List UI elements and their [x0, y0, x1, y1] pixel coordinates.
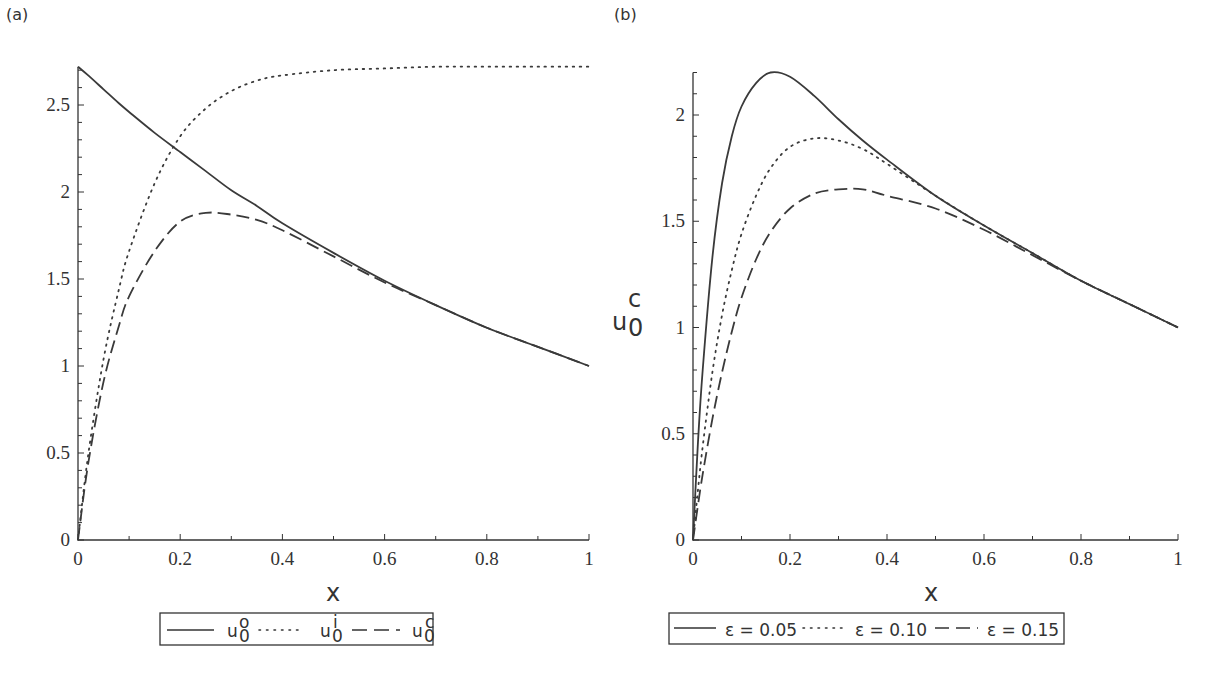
- figure: (a) 00.20.40.60.8100.511.522.5 x u 0 o u…: [0, 0, 1215, 684]
- series-line-0: [78, 67, 589, 366]
- y-tick-label: 2.5: [46, 94, 70, 115]
- y-tick-label: 2: [61, 181, 71, 202]
- x-axis-label-b: x: [924, 579, 938, 607]
- legend-b: ε = 0.05 ε = 0.10 ε = 0.15: [669, 613, 1064, 644]
- x-tick-label: 1: [584, 548, 594, 569]
- x-axis-label-a: x: [326, 579, 340, 607]
- svg-text:u: u: [412, 621, 423, 641]
- axes-b: 00.20.40.60.8100.511.52: [661, 73, 1183, 570]
- legend-b-item-1: ε = 0.10: [855, 620, 927, 640]
- series-line-2: [78, 212, 589, 540]
- series-line-2: [693, 189, 1178, 540]
- panel-label-a: (a): [6, 5, 28, 24]
- series-line-0: [693, 72, 1178, 540]
- svg-text:0: 0: [628, 314, 643, 342]
- y-tick-label: 0.5: [661, 423, 685, 444]
- x-tick-label: 0.6: [972, 548, 996, 569]
- y-axis-label-b: u 0 c: [612, 285, 643, 342]
- legend-a: u 0 o u 0 i u 0 c: [160, 612, 435, 646]
- x-tick-label: 0.6: [373, 548, 397, 569]
- chart-panel-a: (a) 00.20.40.60.8100.511.522.5 x u 0 o u…: [6, 5, 594, 646]
- plot-lines-a: [78, 67, 589, 540]
- x-tick-label: 1: [1173, 548, 1183, 569]
- x-tick-label: 0.4: [875, 548, 899, 569]
- svg-text:u: u: [612, 308, 627, 336]
- y-tick-label: 1.5: [46, 268, 70, 289]
- x-tick-label: 0: [688, 548, 698, 569]
- svg-text:i: i: [333, 612, 338, 632]
- plot-lines-b: [693, 72, 1178, 540]
- x-tick-label: 0: [73, 548, 83, 569]
- y-tick-label: 0.5: [46, 442, 70, 463]
- y-tick-label: 0: [676, 529, 686, 550]
- svg-text:c: c: [628, 285, 641, 313]
- y-tick-label: 1: [61, 355, 71, 376]
- x-tick-label: 0.2: [168, 548, 192, 569]
- y-tick-label: 0: [61, 529, 71, 550]
- chart-panel-b: (b) 00.20.40.60.8100.511.52 u 0 c x ε = …: [612, 5, 1183, 644]
- y-tick-label: 1.5: [661, 210, 685, 231]
- x-tick-label: 0.8: [1069, 548, 1093, 569]
- legend-b-item-0: ε = 0.05: [725, 620, 797, 640]
- svg-text:u: u: [227, 621, 238, 641]
- x-tick-label: 0.8: [475, 548, 499, 569]
- legend-b-item-2: ε = 0.15: [987, 620, 1059, 640]
- x-tick-label: 0.4: [271, 548, 295, 569]
- svg-text:u: u: [320, 621, 331, 641]
- series-line-1: [693, 138, 1178, 540]
- svg-text:o: o: [239, 612, 249, 632]
- x-tick-label: 0.2: [778, 548, 802, 569]
- y-tick-label: 2: [676, 104, 686, 125]
- svg-text:c: c: [425, 612, 434, 632]
- panel-label-b: (b): [614, 5, 637, 24]
- y-tick-label: 1: [676, 317, 686, 338]
- axes-a: 00.20.40.60.8100.511.522.5: [46, 67, 594, 569]
- series-line-1: [78, 67, 589, 540]
